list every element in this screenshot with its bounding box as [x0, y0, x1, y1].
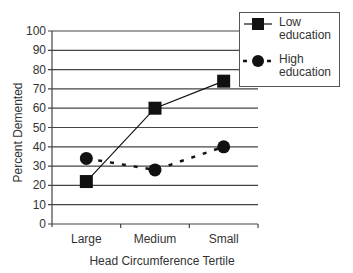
x-category-label: Small: [209, 232, 239, 246]
y-tick-label: 100: [26, 24, 46, 38]
y-tick-label: 60: [33, 101, 47, 115]
legend-high-label: High: [279, 52, 304, 66]
legend-low-label: Low: [279, 15, 301, 29]
circle-marker-icon: [149, 163, 162, 176]
y-tick-label: 0: [39, 217, 46, 231]
square-marker-icon: [217, 75, 230, 88]
y-tick-label: 50: [33, 121, 47, 135]
y-axis-title: Percent Demented: [11, 82, 25, 182]
legend-low-label: education: [279, 28, 331, 42]
circle-marker-icon: [80, 152, 93, 165]
y-tick-label: 10: [33, 198, 47, 212]
y-tick-label: 90: [33, 43, 47, 57]
x-category-label: Large: [71, 232, 102, 246]
y-tick-label: 80: [33, 63, 47, 77]
y-tick-label: 20: [33, 178, 47, 192]
line-chart: 0102030405060708090100LargeMediumSmallHe…: [0, 0, 353, 273]
legend-square-icon: [252, 18, 264, 30]
circle-marker-icon: [217, 140, 230, 153]
square-marker-icon: [149, 102, 162, 115]
x-axis-title: Head Circumference Tertile: [89, 254, 234, 268]
legend-high-label: education: [279, 65, 331, 79]
y-tick-label: 30: [33, 159, 47, 173]
square-marker-icon: [80, 175, 93, 188]
legend-circle-icon: [252, 55, 264, 67]
x-category-label: Medium: [134, 232, 177, 246]
y-tick-label: 40: [33, 140, 47, 154]
y-tick-label: 70: [33, 82, 47, 96]
